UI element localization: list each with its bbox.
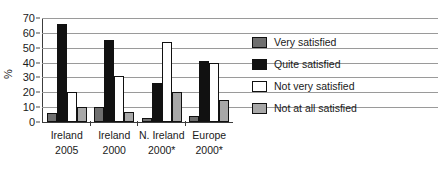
legend-item: Not at all satisfied [252, 97, 357, 119]
x-axis-label-line: Europe [186, 128, 234, 143]
x-axis-label: Ireland2000 [91, 128, 139, 158]
bar [142, 118, 152, 122]
bar [57, 24, 67, 122]
bar-group [43, 18, 91, 122]
x-axis-labels: Ireland2005Ireland2000N. Ireland2000*Eur… [43, 128, 233, 158]
x-axis-label-line: 2005 [43, 143, 91, 158]
x-axis-label-line: 2000 [91, 143, 139, 158]
x-axis-label-line: N. Ireland [138, 128, 186, 143]
y-tick-mark [36, 107, 40, 108]
x-axis-label: Ireland2005 [43, 128, 91, 158]
plot-area: 010203040506070 [42, 18, 232, 122]
y-tick-label: 0 [29, 116, 35, 128]
y-tick-label: 70 [23, 12, 35, 24]
y-tick-mark [36, 18, 40, 19]
bar [219, 100, 229, 122]
legend-swatch [252, 37, 267, 48]
bar [124, 112, 134, 122]
y-tick-label: 20 [23, 86, 35, 98]
y-tick-mark [36, 77, 40, 78]
y-tick-label: 30 [23, 71, 35, 83]
legend-swatch [252, 103, 267, 114]
legend-item: Quite satisfied [252, 53, 357, 75]
bar [67, 92, 77, 122]
legend-swatch [252, 81, 267, 92]
y-tick-mark [36, 47, 40, 48]
y-tick-mark [36, 92, 40, 93]
x-axis-label-line: 2000* [138, 143, 186, 158]
bar [77, 107, 87, 122]
legend-item: Very satisfied [252, 31, 357, 53]
bar [189, 116, 199, 122]
x-axis-label-line: Ireland [91, 128, 139, 143]
legend-label: Not at all satisfied [274, 102, 357, 114]
legend-label: Not very satisfied [274, 80, 355, 92]
legend-item: Not very satisfied [252, 75, 357, 97]
bar-groups [43, 18, 233, 122]
bar [114, 76, 124, 122]
bar [162, 42, 172, 122]
y-tick-mark [36, 62, 40, 63]
y-tick-mark [36, 122, 40, 123]
y-tick-label: 10 [23, 101, 35, 113]
bar [152, 83, 162, 122]
y-tick-mark [36, 32, 40, 33]
legend-swatch [252, 59, 267, 70]
x-axis-label-line: 2000* [186, 143, 234, 158]
bar-group [138, 18, 186, 122]
x-axis-label-line: Ireland [43, 128, 91, 143]
x-axis-label: N. Ireland2000* [138, 128, 186, 158]
legend-label: Very satisfied [274, 36, 336, 48]
bar [47, 113, 57, 122]
y-axis-title: % [2, 69, 14, 79]
y-tick-label: 50 [23, 42, 35, 54]
y-tick-label: 40 [23, 57, 35, 69]
legend-label: Quite satisfied [274, 58, 341, 70]
bar-group [186, 18, 234, 122]
bar [94, 107, 104, 122]
bar [104, 40, 114, 122]
bar [172, 92, 182, 122]
y-tick-label: 60 [23, 27, 35, 39]
bar [199, 61, 209, 122]
chart-figure: % 010203040506070 Ireland2005Ireland2000… [0, 0, 438, 184]
bar [209, 63, 219, 122]
y-axis-ticks: 010203040506070 [16, 18, 40, 122]
bar-group [91, 18, 139, 122]
x-axis-label: Europe2000* [186, 128, 234, 158]
chart-legend: Very satisfiedQuite satisfiedNot very sa… [252, 31, 357, 119]
